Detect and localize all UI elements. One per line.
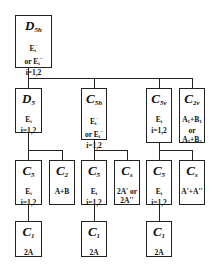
node-title: C1: [82, 225, 106, 243]
node-c5h: C5h Ei' or Ei'' i=1,2: [81, 88, 107, 140]
node-irreps: A+B: [50, 187, 74, 196]
connector: [192, 78, 193, 88]
node-c1-left: C1 2A: [15, 221, 42, 257]
connector: [28, 78, 193, 79]
node-c5-middle: C5 Ei i=1,2: [81, 160, 107, 205]
node-irreps: Ei' or Ei'' i=1,2: [16, 42, 51, 77]
node-title: Cs: [115, 164, 139, 182]
node-c1-right: C1 2A: [146, 221, 172, 257]
connector: [28, 133, 29, 160]
node-title: C2: [50, 164, 74, 182]
node-title: C5: [82, 164, 106, 182]
node-title: C1: [16, 225, 41, 243]
connector: [159, 150, 193, 151]
node-irreps: Ei i=1,2: [147, 115, 171, 135]
node-title: D5: [16, 92, 41, 110]
connector: [159, 143, 160, 160]
connector: [192, 150, 193, 160]
node-title: C5v: [147, 92, 171, 110]
node-title: C5: [147, 164, 171, 182]
node-irreps: 2A' or 2A'': [115, 187, 139, 205]
connector: [28, 78, 29, 88]
node-c1-middle: C1 2A: [81, 221, 107, 257]
node-c5v: C5v Ei i=1,2: [146, 88, 172, 143]
node-irreps: 2A: [147, 248, 171, 257]
node-irreps: Ei i=1,2: [82, 187, 106, 207]
node-d5h: D5h Ei' or Ei'' i=1,2: [15, 15, 52, 68]
connector: [94, 205, 95, 221]
node-cs-right: Cs A'+A'': [179, 160, 205, 205]
node-irreps: Ei i=1,2: [147, 187, 171, 207]
node-c2v: C2v A1+B1 or A2+B2: [179, 88, 205, 143]
node-title: C5: [16, 164, 41, 182]
connector: [62, 150, 63, 160]
node-irreps: A1+B1 or A2+B2: [180, 115, 204, 146]
connector: [127, 150, 128, 160]
node-title: C5h: [82, 92, 106, 110]
node-irreps: Ei i=1,2: [16, 187, 41, 207]
node-c5-right: C5 Ei i=1,2: [146, 160, 172, 205]
node-irreps: 2A: [16, 248, 41, 257]
connector: [28, 205, 29, 221]
node-cs-middle: Cs 2A' or 2A'': [114, 160, 140, 205]
node-title: C2v: [180, 92, 204, 110]
connector: [94, 150, 128, 151]
connector: [159, 78, 160, 88]
node-c5-left: C5 Ei i=1,2: [15, 160, 42, 205]
node-title: D5h: [16, 19, 51, 37]
node-irreps: A'+A'': [180, 187, 204, 196]
connector: [159, 205, 160, 221]
connector: [94, 78, 95, 88]
node-c2: C2 A+B: [49, 160, 75, 205]
node-irreps: Ei i=1,2: [16, 115, 41, 135]
connector: [28, 150, 63, 151]
node-d5: D5 Ei i=1,2: [15, 88, 42, 133]
node-irreps: 2A: [82, 248, 106, 257]
node-title: Cs: [180, 164, 204, 182]
node-irreps: Ei' or Ei'' i=1,2: [82, 115, 106, 150]
node-title: C1: [147, 225, 171, 243]
